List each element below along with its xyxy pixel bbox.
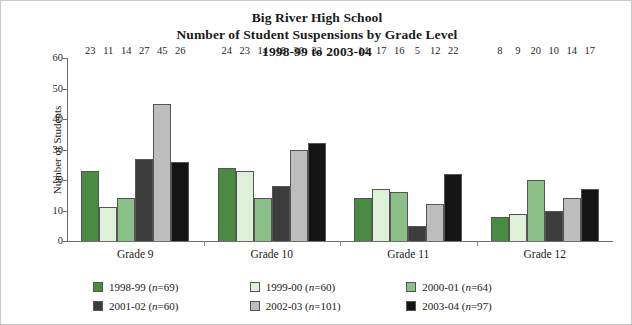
bar: 27 — [135, 159, 153, 241]
y-tick-label: 10 — [37, 206, 63, 216]
legend-swatch — [93, 301, 103, 311]
legend-swatch — [250, 301, 260, 311]
bar-value-label: 27 — [139, 45, 150, 56]
bar-value-label: 9 — [515, 45, 520, 56]
bar: 10 — [545, 211, 563, 242]
bar-column: 17 — [372, 58, 390, 241]
legend-swatch — [250, 282, 260, 292]
bar: 9 — [509, 214, 527, 241]
bar-column: 32 — [308, 58, 326, 241]
bar-value-label: 23 — [85, 45, 96, 56]
bar-column: 26 — [171, 58, 189, 241]
legend-swatch — [406, 301, 416, 311]
bar-value-label: 26 — [175, 45, 186, 56]
bar: 23 — [81, 171, 99, 241]
bar-column: 10 — [545, 58, 563, 241]
x-axis-group-tick — [340, 241, 341, 246]
legend-item[interactable]: 2003-04 (n=97) — [406, 300, 563, 312]
bar: 14 — [354, 198, 372, 241]
bar-value-label: 45 — [157, 45, 168, 56]
legend-swatch — [93, 282, 103, 292]
y-tick-label: 60 — [37, 53, 63, 63]
legend-item[interactable]: 2000-01 (n=64) — [406, 281, 563, 293]
bar-value-label: 20 — [531, 45, 542, 56]
bar: 14 — [117, 198, 135, 241]
bar: 11 — [99, 207, 117, 241]
bar-column: 23 — [236, 58, 254, 241]
bar-group: 8920101417Grade 12 — [477, 58, 614, 241]
bar: 5 — [408, 226, 426, 241]
bar-value-label: 17 — [376, 45, 387, 56]
legend-item[interactable]: 2001-02 (n=60) — [93, 300, 250, 312]
bar-value-label: 14 — [121, 45, 132, 56]
y-tick-label: 20 — [37, 175, 63, 185]
chart-title-line-2: Number of Student Suspensions by Grade L… — [1, 26, 632, 43]
bar-value-label: 17 — [585, 45, 596, 56]
bar-value-label: 30 — [294, 45, 305, 56]
bar-column: 30 — [290, 58, 308, 241]
bar-column: 45 — [153, 58, 171, 241]
bar-column: 12 — [426, 58, 444, 241]
bar-group-bars: 8920101417 — [477, 58, 628, 241]
bar-value-label: 5 — [415, 45, 420, 56]
chart-title-line-1: Big River High School — [1, 9, 632, 26]
bar-value-label: 12 — [430, 45, 441, 56]
bar-value-label: 8 — [497, 45, 502, 56]
bar: 45 — [153, 104, 171, 241]
bar-column: 18 — [272, 58, 290, 241]
bar-column: 11 — [99, 58, 117, 241]
legend-label: 2001-02 (n=60) — [109, 300, 178, 312]
bar: 12 — [426, 204, 444, 241]
bar-group-bars: 242314183032 — [204, 58, 355, 241]
x-axis-category-label: Grade 10 — [204, 248, 341, 260]
x-axis-category-label: Grade 11 — [340, 248, 477, 260]
bar-value-label: 32 — [312, 45, 323, 56]
legend-label: 2002-03 (n=101) — [266, 300, 341, 312]
legend-label: 1998-99 (n=69) — [109, 281, 178, 293]
bar-column: 22 — [444, 58, 462, 241]
bar: 23 — [236, 171, 254, 241]
bar-value-label: 14 — [258, 45, 269, 56]
legend-label: 2000-01 (n=64) — [422, 281, 491, 293]
bar: 14 — [254, 198, 272, 241]
bar-value-label: 24 — [222, 45, 233, 56]
bar-column: 24 — [218, 58, 236, 241]
x-axis-group-tick — [477, 241, 478, 246]
legend-item[interactable]: 2002-03 (n=101) — [250, 300, 407, 312]
bar-group: 231114274526Grade 9 — [67, 58, 204, 241]
bar: 17 — [581, 189, 599, 241]
bar: 22 — [444, 174, 462, 241]
bar-column: 17 — [581, 58, 599, 241]
y-tick-label: 30 — [37, 145, 63, 155]
bar-value-label: 16 — [394, 45, 405, 56]
y-tick-label: 50 — [37, 84, 63, 94]
bar-column: 14 — [563, 58, 581, 241]
bar-value-label: 10 — [549, 45, 560, 56]
bar-group: 14171651222Grade 11 — [340, 58, 477, 241]
chart-figure: Big River High School Number of Student … — [0, 0, 632, 325]
bar-group-bars: 14171651222 — [340, 58, 491, 241]
bar-column: 14 — [354, 58, 372, 241]
bar-group-bars: 231114274526 — [67, 58, 218, 241]
bar-value-label: 14 — [567, 45, 578, 56]
x-axis-category-label: Grade 12 — [477, 248, 614, 260]
bar: 8 — [491, 217, 509, 241]
legend-item[interactable]: 1998-99 (n=69) — [93, 281, 250, 293]
bar-column: 14 — [117, 58, 135, 241]
bar-column: 16 — [390, 58, 408, 241]
bar: 18 — [272, 186, 290, 241]
bar: 26 — [171, 162, 189, 241]
bar-value-label: 22 — [448, 45, 459, 56]
bar: 32 — [308, 143, 326, 241]
legend-item[interactable]: 1999-00 (n=60) — [250, 281, 407, 293]
bar-column: 23 — [81, 58, 99, 241]
y-tick-mark — [63, 241, 67, 242]
bar: 20 — [527, 180, 545, 241]
bar-column: 9 — [509, 58, 527, 241]
bar-value-label: 14 — [358, 45, 369, 56]
bar: 16 — [390, 192, 408, 241]
y-tick-label: 40 — [37, 114, 63, 124]
bar-column: 14 — [254, 58, 272, 241]
x-axis-group-tick — [204, 241, 205, 246]
legend-swatch — [406, 282, 416, 292]
